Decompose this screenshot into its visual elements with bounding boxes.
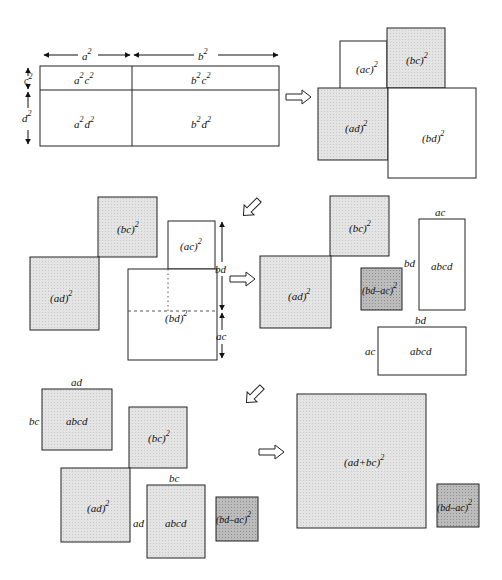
diagram-canvas: a2 b2 c2 d2 a2c2 b2c2 a2d2 b2d2 (ac)2 (b… — [0, 0, 502, 580]
dim-label-ac: ac — [365, 345, 376, 357]
panel-4-left: abcd ad bc (bc)2 (ad)2 abcd bc ad (bd–ac… — [29, 376, 258, 558]
dim-label-bd: bd — [215, 263, 227, 275]
label-abcd: abcd — [165, 517, 187, 529]
dim-label-bd: bd — [404, 257, 416, 269]
panel-1-expansion-rectangle: a2 b2 c2 d2 a2c2 b2c2 a2d2 b2d2 — [22, 47, 279, 146]
right-arrow-icon — [230, 272, 255, 286]
panel-4-right: (ad+bc)2 (bd–ac)2 — [297, 394, 479, 528]
dim-label-d2: d2 — [22, 109, 32, 124]
dim-label-b2: b2 — [198, 47, 208, 62]
dim-label-bc: bc — [169, 472, 180, 484]
down-left-arrow-icon — [238, 195, 263, 220]
panel-2-four-squares: (ac)2 (bc)2 (ad)2 (bd)2 — [318, 28, 476, 178]
dim-label-ac: ac — [216, 330, 227, 342]
label-ad-plus-bc2: (ad+bc)2 — [344, 453, 384, 469]
dim-label-ad: ad — [71, 376, 83, 388]
right-arrow-icon — [286, 90, 311, 104]
label-abcd: abcd — [66, 415, 88, 427]
dim-label-bd: bd — [415, 314, 427, 326]
dim-label-ad: ad — [133, 517, 145, 529]
panel-3-left: (bc)2 (ad)2 (ac)2 (bd)2 bd ac — [30, 197, 227, 360]
dim-label-c2: c2 — [24, 72, 32, 86]
panel-3-right: (bc)2 (ad)2 (bd–ac)2 abcd ac bd abcd bd … — [260, 196, 466, 375]
right-arrow-icon — [259, 445, 284, 459]
label-abcd: abcd — [431, 260, 453, 272]
dim-label-a2: a2 — [82, 47, 92, 62]
dim-label-bc: bc — [29, 415, 40, 427]
dim-label-ac: ac — [435, 206, 446, 218]
down-left-arrow-icon — [241, 382, 266, 407]
label-abcd: abcd — [410, 345, 432, 357]
